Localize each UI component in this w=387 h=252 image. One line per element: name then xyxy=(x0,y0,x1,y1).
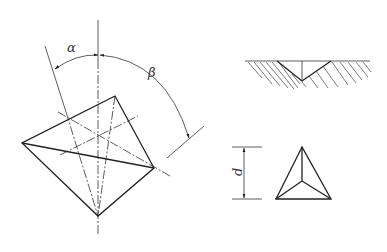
pyramid-figure: α β xyxy=(22,20,204,236)
cross-section-figure xyxy=(245,61,371,89)
tilted-axis-top xyxy=(45,46,66,112)
beta-extension-line xyxy=(167,126,204,158)
d-label: d xyxy=(230,168,245,176)
top-view-figure: d xyxy=(230,147,331,199)
alpha-arc xyxy=(55,55,98,69)
alpha-label: α xyxy=(67,40,76,55)
technical-diagram: α β d xyxy=(0,0,387,252)
triangle-outline xyxy=(276,147,331,199)
beta-label: β xyxy=(147,65,156,80)
edge-centerline xyxy=(98,96,115,216)
